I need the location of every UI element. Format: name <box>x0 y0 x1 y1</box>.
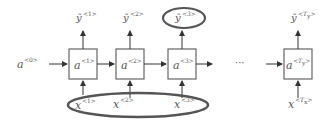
svg-text:<0>: <0> <box>24 56 38 63</box>
output-yhat-1: ŷ <1> <box>75 10 97 23</box>
svg-text:ŷ: ŷ <box>122 12 129 23</box>
svg-text:x: x <box>75 99 82 112</box>
rnn-cell-2: a <2> <box>116 49 144 79</box>
svg-text:x: x <box>288 98 295 111</box>
svg-text:<3>: <3> <box>182 10 196 17</box>
rnn-cell-Ty: a <Ty> <box>284 49 312 79</box>
svg-text:<1>: <1> <box>81 57 95 64</box>
svg-text:<Ty>: <Ty> <box>298 10 315 20</box>
svg-text:<1>: <1> <box>83 10 97 17</box>
output-yhat-Ty: ŷ <Ty> <box>290 10 315 23</box>
rnn-cell-3: a <3> <box>168 49 196 79</box>
input-x-2: x <2> <box>113 96 134 111</box>
svg-text:ŷ: ŷ <box>174 12 181 23</box>
svg-text:a: a <box>74 59 81 72</box>
svg-text:<2>: <2> <box>120 96 134 103</box>
svg-text:<Tx>: <Tx> <box>295 96 312 105</box>
input-x-3: x <3> <box>174 96 195 111</box>
input-x-1: x <1> <box>75 97 96 112</box>
svg-text:<2>: <2> <box>130 10 144 17</box>
ellipsis: ··· <box>235 57 245 68</box>
output-yhat-3: ŷ <3> <box>174 10 196 23</box>
initial-state-label: a <0> <box>17 56 38 71</box>
svg-text:a: a <box>173 59 180 72</box>
svg-text:<3>: <3> <box>180 57 194 64</box>
svg-text:ŷ: ŷ <box>75 12 82 23</box>
rnn-diagram: a <0> a <1> a <2> a <3> ··· a <Ty> ŷ <box>0 0 332 122</box>
rnn-cell-1: a <1> <box>69 49 97 79</box>
svg-text:a: a <box>121 59 128 72</box>
svg-text:<2>: <2> <box>128 57 142 64</box>
svg-text:a: a <box>17 58 24 71</box>
svg-text:a: a <box>286 59 293 72</box>
svg-text:x: x <box>174 98 181 111</box>
input-x-Tx: x <Tx> <box>288 96 312 111</box>
svg-text:ŷ: ŷ <box>290 12 297 23</box>
svg-text:<3>: <3> <box>181 96 195 103</box>
output-yhat-2: ŷ <2> <box>122 10 144 23</box>
svg-text:x: x <box>113 98 120 111</box>
svg-text:<1>: <1> <box>82 97 96 104</box>
